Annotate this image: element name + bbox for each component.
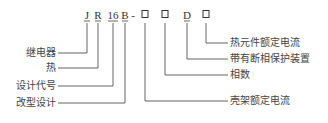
label-modified-design: 改型设计: [10, 97, 56, 108]
label-relay: 继电器: [20, 47, 56, 58]
label-frame-rated-current: 壳架额定电流: [230, 95, 290, 106]
placeholder-box-element-current: [203, 10, 210, 18]
label-design-code: 设计代号: [10, 80, 56, 91]
symbol-b: B: [121, 9, 128, 21]
symbol-r: R: [94, 9, 101, 21]
placeholder-box-phase-count: [162, 10, 169, 18]
symbol-j: J: [85, 9, 89, 21]
symbol-dash: -: [131, 9, 135, 21]
placeholder-box-frame-current: [142, 10, 149, 18]
label-phase-loss-protection: 带有断相保护装置: [230, 53, 310, 64]
symbol-d: D: [183, 9, 191, 21]
label-element-rated-current: 热元件额定电流: [230, 37, 300, 48]
label-thermal: 热: [20, 62, 56, 73]
label-phase-count: 相数: [230, 69, 250, 80]
model-code-diagram: J R 16 B - D 继电器 热 设计代号 改型设计 热元件额定电流 带有断…: [0, 0, 328, 123]
symbol-16: 16: [108, 9, 119, 21]
